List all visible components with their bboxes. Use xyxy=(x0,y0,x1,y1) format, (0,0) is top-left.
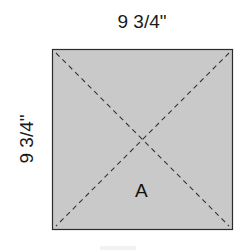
piece-label: A xyxy=(135,180,148,202)
bottom-crop-artifact xyxy=(100,246,136,250)
square-template xyxy=(0,0,249,250)
